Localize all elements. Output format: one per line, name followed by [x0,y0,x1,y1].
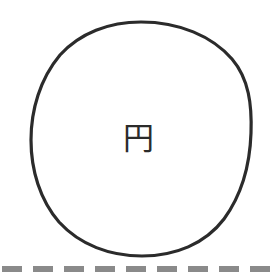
divider-dash [2,266,22,272]
divider-dash [188,266,208,272]
circle-outline [31,22,251,256]
divider-dash [250,266,270,272]
circle-figure [0,0,279,276]
figure-canvas: 円 [0,0,279,276]
divider-dash [219,266,239,272]
divider-dash [157,266,177,272]
divider-dash [95,266,115,272]
divider-dash [126,266,146,272]
dashed-divider [2,266,277,272]
divider-dash [64,266,84,272]
divider-dash [33,266,53,272]
